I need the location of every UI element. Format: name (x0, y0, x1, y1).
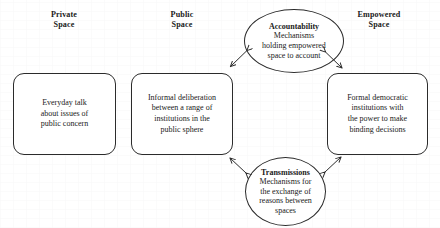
column-header-private-space: Private Space (24, 10, 104, 31)
empowered-space-box-text: Formal democratic institutions with the … (347, 93, 408, 135)
transmissions-ellipse-title: Transmissions (261, 168, 310, 178)
transmissions-ellipse[interactable]: Transmissions Mechanisms for the exchang… (245, 157, 326, 226)
private-space-box-text: Everyday talk about issues of public con… (41, 98, 89, 130)
diagram-canvas: Private Space Public Space Empowered Spa… (0, 0, 440, 228)
public-space-box-text: Informal deliberation between a range of… (148, 93, 216, 135)
transmissions-ellipse-text: Mechanisms for the exchange of reasons b… (259, 177, 312, 215)
connector-transmissions-to-public (230, 158, 246, 173)
column-header-empowered-space: Empowered Space (337, 10, 421, 31)
connector-accountability-to-public (231, 51, 248, 67)
public-space-box[interactable]: Informal deliberation between a range of… (131, 73, 233, 155)
accountability-ellipse-title: Accountability (269, 22, 319, 32)
column-header-public-space: Public Space (142, 10, 222, 31)
connector-transmissions-to-empowered (325, 157, 341, 172)
empowered-space-box[interactable]: Formal democratic institutions with the … (327, 73, 428, 155)
private-space-box[interactable]: Everyday talk about issues of public con… (13, 73, 116, 155)
accountability-ellipse[interactable]: Accountability Mechanisms holding empowe… (244, 9, 344, 73)
accountability-ellipse-text: Mechanisms holding empowered space to ac… (262, 31, 326, 60)
